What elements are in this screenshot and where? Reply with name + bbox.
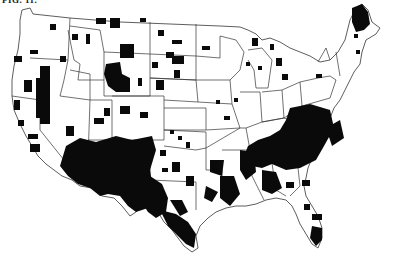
us-county-map bbox=[0, 0, 404, 265]
